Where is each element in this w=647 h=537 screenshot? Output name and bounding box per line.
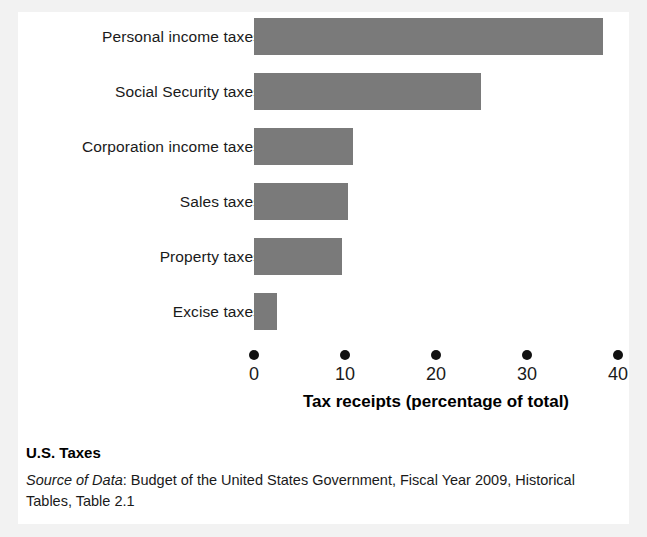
bar-row: Property taxes	[18, 238, 629, 275]
x-tick-label: 30	[497, 364, 557, 385]
x-tick-dot	[340, 350, 350, 360]
category-label: Sales taxes	[180, 193, 261, 211]
category-label: Social Security taxes	[115, 83, 261, 101]
bar-row: Sales taxes	[18, 183, 629, 220]
category-label: Personal income taxes	[102, 28, 261, 46]
bar-corporation-income-taxes	[254, 128, 353, 165]
bar-chart-plot-area: Personal income taxes Social Security ta…	[18, 12, 629, 412]
x-tick-dot	[249, 350, 259, 360]
x-axis: 0 10 20 30 40 Tax receipts (percentage o…	[18, 342, 629, 412]
x-tick-label: 0	[224, 364, 284, 385]
category-label: Excise taxes	[173, 303, 261, 321]
x-tick-label: 10	[315, 364, 375, 385]
figure-caption: U.S. Taxes Source of Data: Budget of the…	[26, 444, 606, 511]
figure-page: Personal income taxes Social Security ta…	[0, 0, 647, 537]
x-tick-dot	[522, 350, 532, 360]
x-tick-dot	[431, 350, 441, 360]
x-tick-label: 20	[406, 364, 466, 385]
figure-card: Personal income taxes Social Security ta…	[18, 12, 629, 524]
x-axis-title: Tax receipts (percentage of total)	[254, 392, 618, 412]
category-label: Property taxes	[160, 248, 261, 266]
bar-row: Personal income taxes	[18, 18, 629, 55]
bar-sales-taxes	[254, 183, 348, 220]
bar-row: Corporation income taxes	[18, 128, 629, 165]
bar-social-security-taxes	[254, 73, 481, 110]
category-label: Corporation income taxes	[82, 138, 261, 156]
caption-body: Source of Data: Budget of the United Sta…	[26, 470, 606, 511]
x-tick-dot	[613, 350, 623, 360]
bar-row: Excise taxes	[18, 293, 629, 330]
bar-excise-taxes	[254, 293, 277, 330]
x-tick-label: 40	[588, 364, 647, 385]
bar-personal-income-taxes	[254, 18, 603, 55]
caption-source-label: Source of Data	[26, 472, 123, 488]
bar-row: Social Security taxes	[18, 73, 629, 110]
caption-title: U.S. Taxes	[26, 444, 606, 461]
caption-source-separator: :	[123, 472, 131, 488]
bar-property-taxes	[254, 238, 342, 275]
